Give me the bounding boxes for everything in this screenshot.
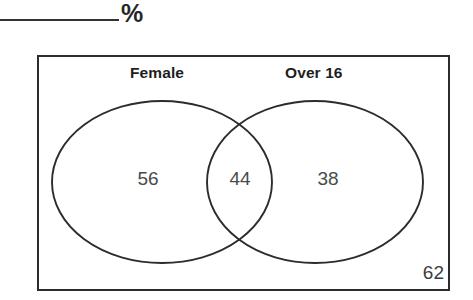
percent-symbol: % [121, 0, 143, 27]
set-label-over-16: Over 16 [285, 64, 343, 82]
region-value-intersection: 44 [210, 168, 270, 190]
set-label-female: Female [130, 64, 184, 82]
region-value-outside-both: 62 [398, 262, 444, 284]
region-value-over-16-only: 38 [298, 168, 358, 190]
region-value-female-only: 56 [118, 168, 178, 190]
answer-blank-line[interactable] [0, 19, 119, 21]
answer-prompt-row: % [0, 0, 160, 30]
